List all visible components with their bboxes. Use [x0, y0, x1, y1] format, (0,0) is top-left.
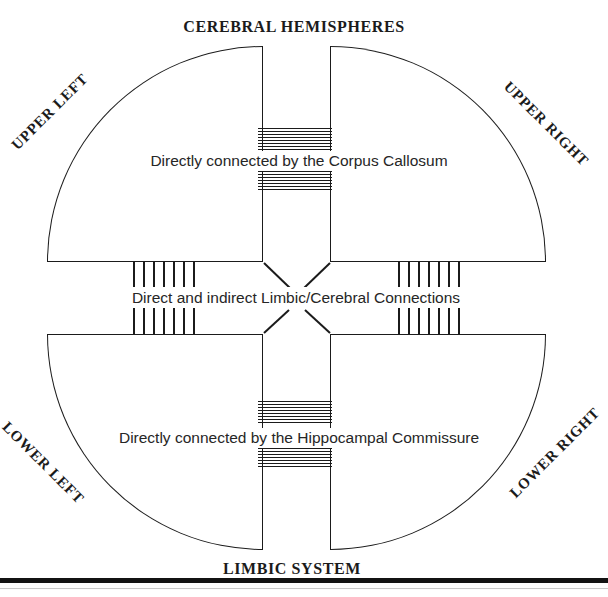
hippocampal-commissure-caption: Directly connected by the Hippocampal Co… — [117, 428, 481, 448]
limbic-cerebral-caption: Direct and indirect Limbic/Cerebral Conn… — [124, 287, 468, 308]
cerebral-hemispheres-title: CEREBRAL HEMISPHERES — [183, 18, 404, 36]
brain-hemispheres-diagram: Directly connected by the Corpus Callosu… — [0, 0, 608, 597]
diagonal-upper-right-icon — [303, 263, 330, 289]
bottom-border-rule-shadow — [0, 588, 608, 589]
bottom-border-rule — [0, 578, 608, 583]
diagonal-lower-right-icon — [305, 310, 330, 333]
diagonal-lower-left-icon — [264, 310, 289, 333]
diagonal-upper-left-icon — [264, 263, 291, 289]
limbic-system-title: LIMBIC SYSTEM — [223, 560, 361, 578]
corpus-callosum-caption: Directly connected by the Corpus Callosu… — [146, 151, 452, 171]
